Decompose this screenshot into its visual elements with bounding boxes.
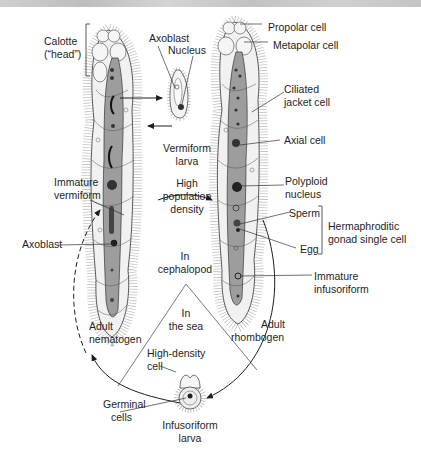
svg-text:Vermiform: Vermiform bbox=[163, 142, 211, 154]
svg-text:larva: larva bbox=[176, 155, 199, 167]
svg-text:jacket cell: jacket cell bbox=[283, 96, 330, 108]
label-egg: Egg bbox=[300, 243, 319, 255]
svg-text:density: density bbox=[170, 203, 204, 215]
svg-text:(“head”): (“head”) bbox=[44, 48, 81, 60]
label-sperm: Sperm bbox=[289, 207, 320, 219]
svg-text:High-density: High-density bbox=[147, 347, 206, 359]
svg-text:Adult: Adult bbox=[89, 320, 113, 332]
label-axoblast-left: Axoblast bbox=[22, 238, 62, 250]
svg-text:Ciliated: Ciliated bbox=[284, 83, 319, 95]
svg-text:infusoriform: infusoriform bbox=[314, 283, 369, 295]
svg-text:Hermaphroditic: Hermaphroditic bbox=[328, 220, 399, 232]
svg-text:Adult: Adult bbox=[261, 318, 285, 330]
svg-text:gonad single cell: gonad single cell bbox=[328, 233, 406, 245]
svg-text:In: In bbox=[182, 307, 191, 319]
svg-text:Germinal: Germinal bbox=[103, 398, 146, 410]
label-metapolar: Metapolar cell bbox=[273, 39, 338, 51]
svg-text:population: population bbox=[163, 190, 212, 202]
svg-text:In: In bbox=[181, 250, 190, 262]
life-cycle-diagram: Calotte (“head”) Axoblast Nucleus Propol… bbox=[0, 0, 421, 459]
svg-text:cephalopod: cephalopod bbox=[158, 263, 212, 275]
svg-text:Immature: Immature bbox=[54, 176, 99, 188]
svg-text:nucleus: nucleus bbox=[285, 188, 321, 200]
label-propolar: Propolar cell bbox=[268, 21, 326, 33]
svg-text:Infusoriform: Infusoriform bbox=[162, 419, 218, 431]
label-axoblast-top: Axoblast bbox=[149, 32, 189, 44]
svg-text:the sea: the sea bbox=[169, 320, 204, 332]
svg-text:cells: cells bbox=[111, 411, 132, 423]
svg-text:High: High bbox=[176, 177, 198, 189]
vermiform-larva bbox=[170, 70, 188, 118]
label-nucleus: Nucleus bbox=[168, 44, 206, 56]
svg-text:Polyploid: Polyploid bbox=[285, 175, 328, 187]
rhombogen-organism bbox=[213, 20, 263, 328]
svg-text:vermiform: vermiform bbox=[54, 189, 101, 201]
svg-text:nematogen: nematogen bbox=[89, 333, 142, 345]
infusoriform-larva bbox=[177, 375, 203, 410]
svg-text:larva: larva bbox=[179, 432, 202, 444]
arc-to-nematogen bbox=[92, 355, 180, 403]
label-axial-cell: Axial cell bbox=[284, 134, 325, 146]
svg-text:Calotte: Calotte bbox=[44, 35, 77, 47]
svg-text:rhombogen: rhombogen bbox=[231, 331, 284, 343]
svg-text:Immature: Immature bbox=[314, 270, 359, 282]
svg-text:cell: cell bbox=[147, 360, 163, 372]
